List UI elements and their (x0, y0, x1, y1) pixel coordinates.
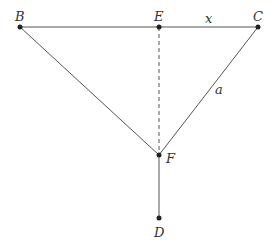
label-C: C (253, 9, 263, 24)
point-C (256, 25, 261, 30)
label-x: x (205, 11, 213, 26)
point-F (157, 153, 162, 158)
label-D: D (153, 225, 165, 240)
segment-CF (159, 27, 258, 155)
point-D (157, 216, 162, 221)
label-E: E (153, 9, 164, 24)
label-F: F (165, 151, 176, 166)
point-E (157, 25, 162, 30)
point-B (18, 25, 23, 30)
segment-BF (20, 27, 159, 155)
geometry-diagram: B E C F D x a (0, 0, 278, 245)
label-a: a (215, 82, 223, 97)
label-B: B (14, 9, 25, 24)
diagram-svg: B E C F D x a (0, 0, 278, 245)
